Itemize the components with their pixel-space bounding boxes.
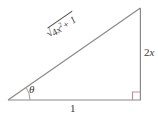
vertical-side-label: 2x [144, 47, 154, 58]
triangle-figure: √4x2+ 1 2x 1 θ [0, 0, 158, 122]
theta-label: θ [29, 84, 34, 95]
right-angle-icon [133, 92, 141, 100]
vertical-side-variable: x [150, 46, 155, 58]
triangle-drawing [0, 0, 158, 122]
base-side-label: 1 [70, 103, 76, 114]
